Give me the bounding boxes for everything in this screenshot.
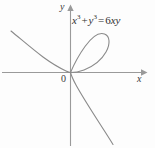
origin-label: 0 (61, 74, 66, 84)
equation-rhs-variable-y: y (116, 14, 121, 26)
equation-plus-operator: + (80, 14, 88, 26)
curve-lower-right-branch (71, 73, 114, 145)
folium-curve (11, 31, 113, 145)
curve-upper-left-branch (11, 31, 71, 73)
equation-annotation: x3+y3=6xy (72, 15, 121, 26)
folium-of-descartes-figure: y x 0 x3+y3=6xy (0, 0, 155, 148)
x-axis-label: x (137, 74, 141, 84)
equation-equals-operator: = (97, 14, 105, 26)
y-axis-arrow-icon (67, 5, 73, 12)
y-axis-label: y (60, 2, 64, 12)
x-axis-arrow-icon (141, 69, 148, 76)
curve-loop (71, 34, 110, 73)
